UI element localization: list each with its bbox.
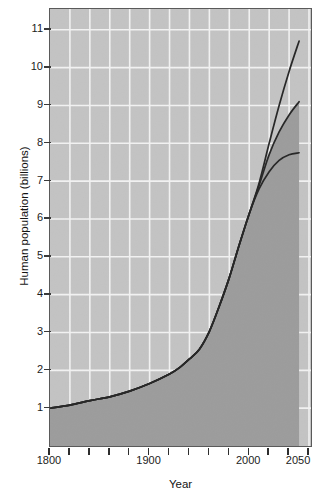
y-tick-mark <box>44 331 51 332</box>
x-tick-label: 1900 <box>119 455 179 466</box>
y-tick-label: 1 <box>9 402 43 413</box>
y-tick-mark <box>44 180 51 181</box>
y-tick-mark <box>44 217 51 218</box>
y-tick-label: 11 <box>9 23 43 34</box>
y-tick-mark <box>44 66 51 67</box>
x-tick-mark <box>267 448 269 455</box>
x-tick-mark <box>228 448 230 455</box>
y-tick-mark <box>44 369 51 370</box>
y-tick-mark <box>44 104 51 105</box>
x-tick-mark <box>108 448 110 455</box>
y-tick-label: 10 <box>9 61 43 72</box>
y-axis-title: Human population (billions) <box>18 116 30 316</box>
x-axis-title: Year <box>49 478 312 490</box>
plot-canvas <box>50 9 311 446</box>
y-tick-mark <box>44 255 51 256</box>
y-tick-mark <box>44 28 51 29</box>
x-tick-label: 2050 <box>268 455 328 466</box>
y-tick-mark <box>44 407 51 408</box>
plot-area <box>49 8 312 447</box>
y-tick-mark <box>44 142 51 143</box>
y-tick-label: 2 <box>9 364 43 375</box>
y-tick-label: 9 <box>9 99 43 110</box>
population-growth-chart: 1234567891011 Human population (billions… <box>0 0 331 504</box>
x-tick-mark <box>128 448 130 455</box>
x-tick-mark <box>188 448 190 455</box>
y-tick-label: 3 <box>9 326 43 337</box>
x-tick-mark <box>208 448 210 455</box>
x-tick-mark <box>168 448 170 455</box>
x-tick-label: 1800 <box>19 455 79 466</box>
x-tick-mark <box>88 448 90 455</box>
y-tick-mark <box>44 293 51 294</box>
x-tick-mark <box>68 448 70 455</box>
